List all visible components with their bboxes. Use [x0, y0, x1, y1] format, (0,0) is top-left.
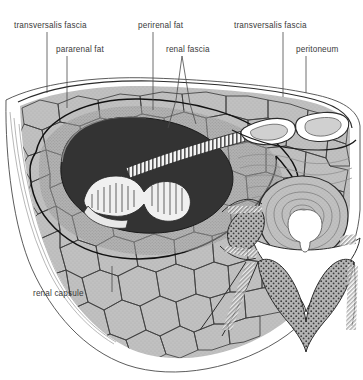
label-transversalis-fascia-right: transversalis fascia [234, 21, 307, 30]
label-pararenal-fat: pararenal fat [56, 45, 104, 54]
anatomical-cross-section-figure: transversalis fasciapararenal fatperiren… [0, 0, 363, 380]
label-renal-fascia: renal fascia [166, 45, 210, 54]
label-peritoneum: peritoneum [296, 45, 338, 54]
label-renal-capsule: renal capsule [33, 289, 84, 298]
label-transversalis-fascia-left: transversalis fascia [14, 21, 87, 30]
label-perirenal-fat: perirenal fat [138, 21, 184, 30]
